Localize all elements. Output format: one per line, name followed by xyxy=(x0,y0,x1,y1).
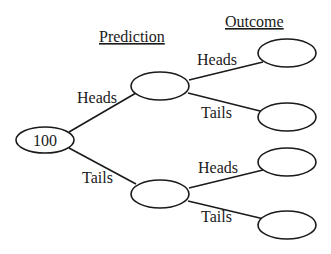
edge-label-heads-tails: Tails xyxy=(201,104,232,121)
edge-label-tails-heads: Heads xyxy=(198,159,238,176)
outcome-node-tails-heads xyxy=(258,148,316,176)
prediction-header: Prediction xyxy=(99,28,165,45)
outcome-header: Outcome xyxy=(225,13,284,30)
root-label: 100 xyxy=(33,132,57,149)
edge-label-tails-tails: Tails xyxy=(201,208,232,225)
outcome-node-tails-tails xyxy=(258,211,316,239)
tree-diagram: Prediction Outcome 100 Heads Tails Heads… xyxy=(0,0,331,254)
edge-label-root-tails: Tails xyxy=(82,169,113,186)
edge-label-heads-heads: Heads xyxy=(197,51,237,68)
edge-label-root-heads: Heads xyxy=(77,89,117,106)
prediction-node-heads xyxy=(131,72,189,100)
outcome-node-heads-tails xyxy=(258,103,316,131)
prediction-node-tails xyxy=(131,180,189,208)
outcome-node-heads-heads xyxy=(258,39,316,67)
